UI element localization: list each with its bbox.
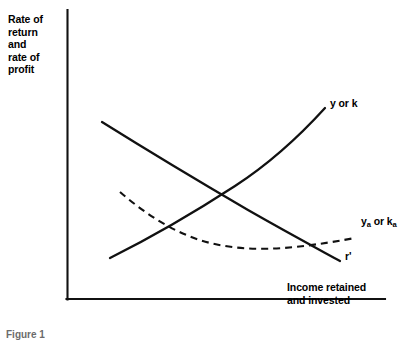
curve-ya-or-ka	[120, 192, 355, 249]
curve-label-ya-base: y	[361, 215, 367, 227]
curve-label-y-or-k: y or k	[330, 97, 357, 109]
figure-root: Rate of return and rate of profit Income…	[0, 0, 406, 340]
figure-caption: Figure 1	[6, 329, 45, 340]
curve-r-prime	[102, 122, 340, 261]
curve-label-ya-subscript: a	[367, 220, 371, 229]
x-axis-label: Income retained and invested	[287, 281, 366, 306]
curve-label-ya-conjunction: or k	[371, 215, 393, 227]
curve-label-r-prime: r'	[345, 250, 351, 262]
y-axis-label: Rate of return and rate of profit	[8, 13, 43, 76]
curve-label-ya-or-ka: ya or ka	[361, 215, 397, 229]
curve-label-ka-subscript: a	[393, 220, 397, 229]
